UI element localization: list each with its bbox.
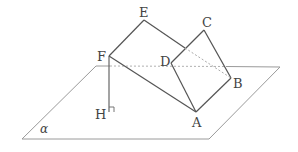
plane-right-edge (209, 67, 280, 139)
label-F: F (97, 49, 106, 64)
segment-CB (204, 30, 231, 78)
label-H: H (95, 107, 106, 122)
geometry-figure: E C F D B A H α (0, 0, 298, 152)
segment-BA (196, 78, 231, 112)
label-E: E (139, 5, 149, 20)
label-B: B (233, 76, 243, 91)
segment-E-hidden (185, 48, 231, 78)
label-D: D (160, 54, 170, 69)
plane-left-edge (22, 66, 96, 139)
segment-DC (171, 30, 204, 63)
segment-FA (109, 56, 196, 112)
label-A: A (191, 115, 202, 130)
segment-FE (109, 20, 144, 56)
perpendicular-FH (109, 56, 114, 112)
plane-back-edge-right (226, 67, 280, 68)
label-C: C (202, 15, 212, 30)
right-angle-mark (109, 107, 114, 112)
label-plane-alpha: α (40, 122, 48, 136)
segment-E-visible (144, 20, 185, 48)
